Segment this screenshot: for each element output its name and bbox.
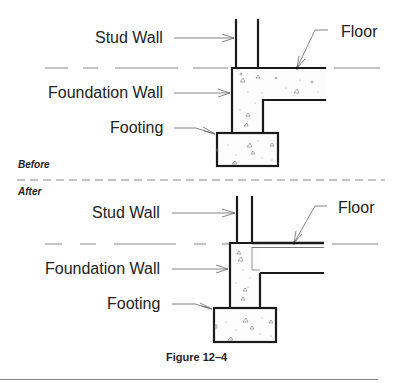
after-footing bbox=[214, 308, 276, 342]
before-footing bbox=[217, 133, 278, 166]
before-stud-wall bbox=[236, 19, 258, 68]
after-stud-wall-label: Stud Wall bbox=[92, 204, 160, 222]
before-foundation-wall-label: Foundation Wall bbox=[48, 84, 163, 102]
after-floor-label: Floor bbox=[338, 199, 374, 217]
after-stud-wall bbox=[237, 196, 252, 243]
section-diagram bbox=[0, 0, 397, 383]
after-footing-label: Footing bbox=[107, 295, 160, 313]
before-section-label: Before bbox=[18, 159, 50, 170]
before-stud-wall-label: Stud Wall bbox=[95, 29, 163, 47]
before-floor-label: Floor bbox=[341, 23, 377, 41]
after-section-label: After bbox=[18, 186, 41, 197]
after-foundation-fill bbox=[230, 243, 260, 308]
before-footing-label: Footing bbox=[110, 119, 163, 137]
figure-caption: Figure 12–4 bbox=[166, 351, 227, 363]
after-foundation-wall-label: Foundation Wall bbox=[45, 260, 160, 278]
